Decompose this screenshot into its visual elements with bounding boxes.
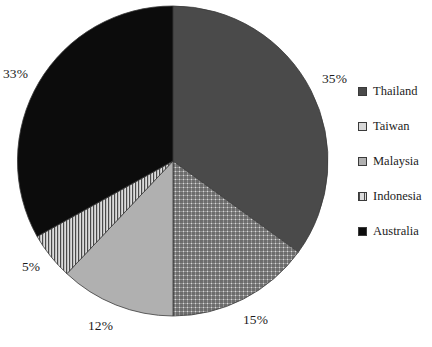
- pie-label-australia: 33%: [3, 66, 28, 82]
- chart-legend: Thailand Taiwan Malaysia Indonesia Austr…: [358, 74, 432, 249]
- legend-item-malaysia[interactable]: Malaysia: [358, 144, 432, 179]
- pie-label-thailand: 35%: [322, 71, 347, 87]
- legend-label-thailand: Thailand: [373, 85, 417, 98]
- legend-label-indonesia: Indonesia: [373, 190, 422, 203]
- legend-item-indonesia[interactable]: Indonesia: [358, 179, 432, 214]
- legend-swatch-icon-thailand: [358, 87, 367, 96]
- legend-item-thailand[interactable]: Thailand: [358, 74, 432, 109]
- legend-label-australia: Australia: [373, 225, 419, 238]
- legend-swatch-icon-australia: [358, 227, 367, 236]
- legend-label-taiwan: Taiwan: [373, 120, 410, 133]
- pie-label-indonesia: 5%: [22, 259, 40, 275]
- legend-label-malaysia: Malaysia: [373, 155, 419, 168]
- pie-label-malaysia: 12%: [88, 318, 113, 334]
- legend-swatch-icon-malaysia: [358, 157, 367, 166]
- legend-item-australia[interactable]: Australia: [358, 214, 432, 249]
- legend-swatch-icon-taiwan: [358, 122, 367, 131]
- legend-swatch-icon-indonesia: [358, 192, 367, 201]
- legend-item-taiwan[interactable]: Taiwan: [358, 109, 432, 144]
- pie-label-taiwan: 15%: [243, 312, 268, 328]
- pie-chart: 35% 15% 12% 5% 33% Thailand Taiwan Malay…: [0, 0, 432, 347]
